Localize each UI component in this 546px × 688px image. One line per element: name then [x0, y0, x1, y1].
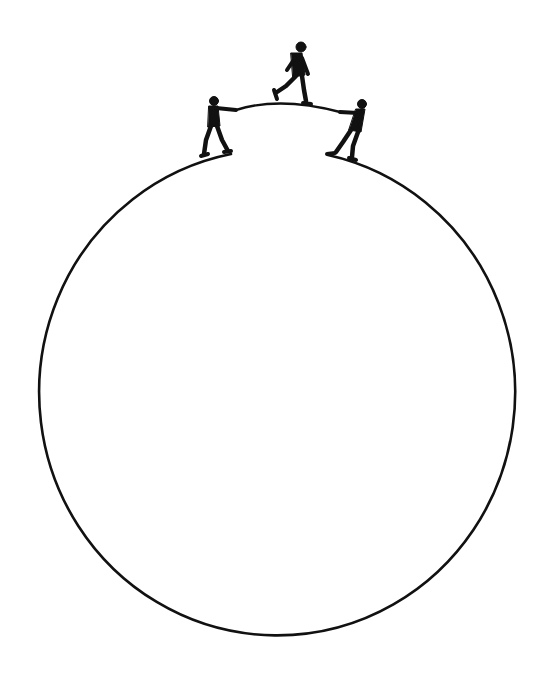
circle-outline — [39, 154, 515, 635]
walker-figure — [274, 42, 311, 104]
illustration-canvas — [0, 0, 546, 688]
left-holder-figure — [201, 97, 236, 157]
right-holder-figure — [327, 100, 367, 161]
rope — [236, 103, 340, 112]
